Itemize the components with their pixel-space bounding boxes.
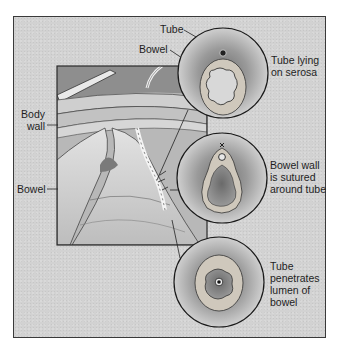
- label-body-wall: Body wall: [18, 108, 45, 132]
- inset3-caption: Tube penetrates lumen of bowel: [270, 260, 320, 308]
- inset-tube-in-lumen: [174, 237, 264, 327]
- inset1-caption: Tube lying on serosa: [271, 54, 319, 78]
- inset-wall-sutured: [177, 133, 267, 223]
- label-tube: Tube: [160, 23, 184, 35]
- label-bowel-top: Bowel: [139, 43, 168, 55]
- inset2-caption: Bowel wall is sutured around tube: [270, 159, 326, 195]
- inset-tube-on-serosa: [178, 28, 268, 118]
- label-bowel-left: Bowel: [17, 183, 46, 195]
